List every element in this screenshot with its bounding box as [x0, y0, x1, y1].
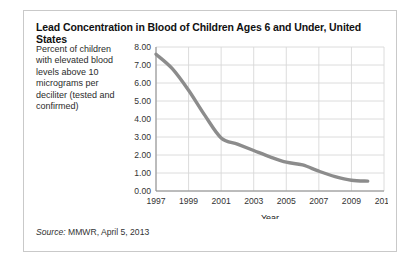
svg-text:2.00: 2.00	[134, 150, 151, 160]
line-chart: 0.001.002.003.004.005.006.007.008.00 199…	[122, 41, 388, 219]
svg-text:7.00: 7.00	[134, 60, 151, 70]
source-value: MMWR, April 5, 2013	[68, 227, 149, 237]
svg-text:1999: 1999	[179, 196, 198, 206]
source-label: Source:	[36, 227, 66, 237]
svg-text:2001: 2001	[212, 196, 231, 206]
svg-text:4.00: 4.00	[134, 114, 151, 124]
svg-text:0.00: 0.00	[134, 186, 151, 196]
y-tick-labels: 0.001.002.003.004.005.006.007.008.00	[134, 42, 151, 196]
svg-text:2003: 2003	[244, 196, 263, 206]
figure-panel: Lead Concentration in Blood of Children …	[23, 10, 397, 252]
y-axis-caption: Percent of children with elevated blood …	[36, 44, 122, 112]
svg-text:2005: 2005	[277, 196, 296, 206]
plot-area: 0.001.002.003.004.005.006.007.008.00 199…	[122, 41, 388, 219]
svg-text:3.00: 3.00	[134, 132, 151, 142]
source-note: Source: MMWR, April 5, 2013	[36, 227, 149, 237]
x-tick-labels: 19971999200120032005200720092011	[146, 196, 388, 206]
x-axis-title: Year	[261, 213, 279, 219]
svg-text:2009: 2009	[342, 196, 361, 206]
svg-text:8.00: 8.00	[134, 42, 151, 52]
svg-text:1997: 1997	[146, 196, 165, 206]
data-series-line	[156, 54, 368, 181]
svg-text:1.00: 1.00	[134, 168, 151, 178]
svg-text:5.00: 5.00	[134, 96, 151, 106]
svg-text:2011: 2011	[375, 196, 388, 206]
svg-text:6.00: 6.00	[134, 78, 151, 88]
svg-text:2007: 2007	[309, 196, 328, 206]
gridlines	[156, 47, 384, 191]
